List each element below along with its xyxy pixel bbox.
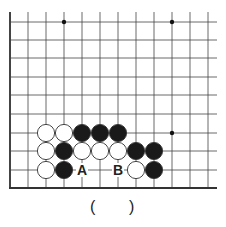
star-point-icon	[170, 20, 174, 24]
star-point-icon	[170, 131, 174, 135]
black-stone-icon	[73, 124, 90, 141]
white-stone-icon	[91, 142, 108, 159]
white-stone-icon	[127, 161, 144, 178]
go-board: AB	[0, 0, 226, 227]
white-stone-icon	[37, 124, 54, 141]
answer-open-paren: (	[90, 198, 95, 216]
white-stone-icon	[109, 142, 126, 159]
black-stone-icon	[145, 142, 162, 159]
white-stone-icon	[73, 142, 90, 159]
black-stone-icon	[55, 161, 72, 178]
white-stone-icon	[37, 161, 54, 178]
point-label-b: B	[113, 162, 123, 178]
black-stone-icon	[109, 124, 126, 141]
black-stone-icon	[55, 142, 72, 159]
black-stone-icon	[145, 161, 162, 178]
point-label-a: A	[77, 162, 87, 178]
black-stone-icon	[127, 142, 144, 159]
star-point-icon	[62, 20, 66, 24]
white-stone-icon	[37, 142, 54, 159]
answer-close-paren: )	[129, 198, 134, 216]
white-stone-icon	[55, 124, 72, 141]
black-stone-icon	[91, 124, 108, 141]
